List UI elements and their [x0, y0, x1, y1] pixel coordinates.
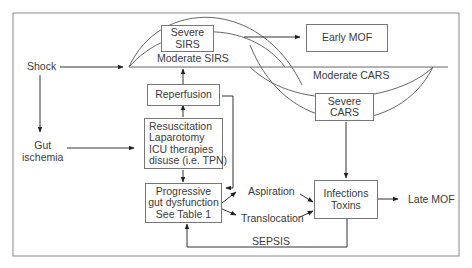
gut-dysfunction-line-3: See Table 1 — [156, 209, 211, 221]
box-gut-dysfunction: Progressive gut dysfunction See Table 1 — [145, 183, 222, 223]
gut-ischemia-line-2: ischemia — [22, 152, 63, 164]
early-mof-text: Early MOF — [322, 32, 372, 44]
severe-sirs-line-2: SIRS — [175, 39, 200, 51]
infections-line-2: Toxins — [331, 200, 361, 212]
severe-cars-line-2: CARS — [330, 107, 359, 119]
label-aspiration: Aspiration — [248, 186, 295, 198]
arrow-reperfusion-gut — [222, 96, 233, 188]
label-sepsis: SEPSIS — [252, 236, 290, 248]
diagram-canvas — [0, 0, 472, 268]
interventions-line-4: disuse (i.e. TPN) — [149, 155, 227, 167]
box-reperfusion: Reperfusion — [147, 84, 220, 106]
box-infections-toxins: Infections Toxins — [314, 180, 378, 219]
box-severe-sirs: Severe SIRS — [161, 25, 214, 52]
gut-ischemia-line-1: Gut — [22, 140, 63, 152]
infections-line-1: Infections — [324, 188, 369, 200]
box-interventions: Resuscitation Laparotomy ICU therapies d… — [144, 118, 223, 169]
arrow-gut-translocation — [222, 209, 236, 215]
arrow-aspiration-infections — [300, 194, 313, 202]
box-early-mof: Early MOF — [306, 24, 388, 52]
reperfusion-text: Reperfusion — [155, 89, 212, 101]
arrow-gut-aspiration — [222, 192, 236, 203]
severe-sirs-line-1: Severe — [171, 27, 204, 39]
frame — [13, 13, 459, 256]
label-gut-ischemia: Gut ischemia — [22, 140, 63, 163]
label-late-mof: Late MOF — [408, 194, 455, 206]
label-shock: Shock — [27, 61, 56, 73]
box-severe-cars: Severe CARS — [315, 93, 374, 121]
interventions-line-2: Laparotomy — [149, 132, 204, 144]
label-moderate-cars: Moderate CARS — [313, 70, 389, 82]
label-translocation: Translocation — [241, 213, 304, 225]
label-moderate-sirs: Moderate SIRS — [157, 53, 229, 65]
